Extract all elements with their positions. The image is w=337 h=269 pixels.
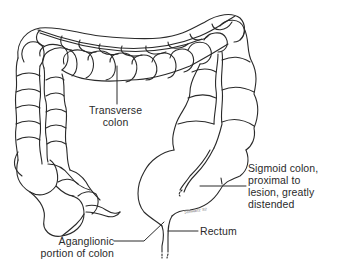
transverse-label-line1: Transverse (89, 104, 142, 116)
sigmoid-label-line3: lesion, greatly (248, 186, 318, 198)
sigmoid-label-line1: Sigmoid colon, (248, 162, 318, 174)
ascending-colon-shape (15, 58, 70, 170)
transverse-colon-shape (18, 15, 245, 82)
aganglionic-label-line2: portion of colon (26, 247, 114, 259)
colon-diagram: Transverse colon Sigmoid colon, proximal… (0, 0, 337, 269)
sigmoid-colon-shape (138, 148, 248, 226)
leader-lines (114, 66, 246, 241)
sigmoid-label-line4: distended (248, 198, 318, 210)
aganglionic-leader (114, 222, 164, 241)
aganglionic-label: Aganglionic portion of colon (28, 235, 114, 259)
sigmoid-colon-label: Sigmoid colon, proximal to lesion, great… (248, 162, 318, 210)
aganglionic-label-line1: Aganglionic (28, 235, 114, 247)
transverse-colon-label: Transverse colon (89, 104, 142, 128)
transverse-label-line2: colon (89, 116, 142, 128)
rectum-label: Rectum (200, 225, 237, 237)
rectum-label-text: Rectum (200, 225, 237, 237)
colon-illustration (0, 0, 337, 269)
sigmoid-label-line2: proximal to (248, 174, 318, 186)
cecum-shape (15, 152, 120, 236)
